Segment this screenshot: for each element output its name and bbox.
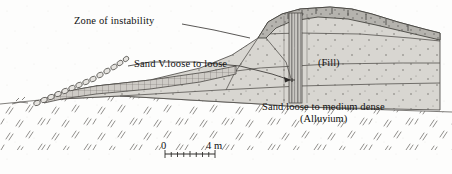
cross-section-figure: Zone of instability Sand V.loose to loos… xyxy=(0,0,452,174)
label-alluvium-description: Sand loose to medium dense xyxy=(262,101,385,112)
scale-bar-end-label: 4 m xyxy=(206,140,222,151)
label-fill: (Fill) xyxy=(318,57,340,68)
cross-section-drawing xyxy=(0,0,452,174)
scale-bar-start-label: 0 xyxy=(161,140,166,151)
label-alluvium-name: (Alluvium) xyxy=(300,113,347,124)
label-zone-of-instability: Zone of instability xyxy=(74,15,154,26)
label-sand-very-loose: Sand V.loose to loose xyxy=(134,58,227,69)
scan-texture xyxy=(0,0,452,174)
